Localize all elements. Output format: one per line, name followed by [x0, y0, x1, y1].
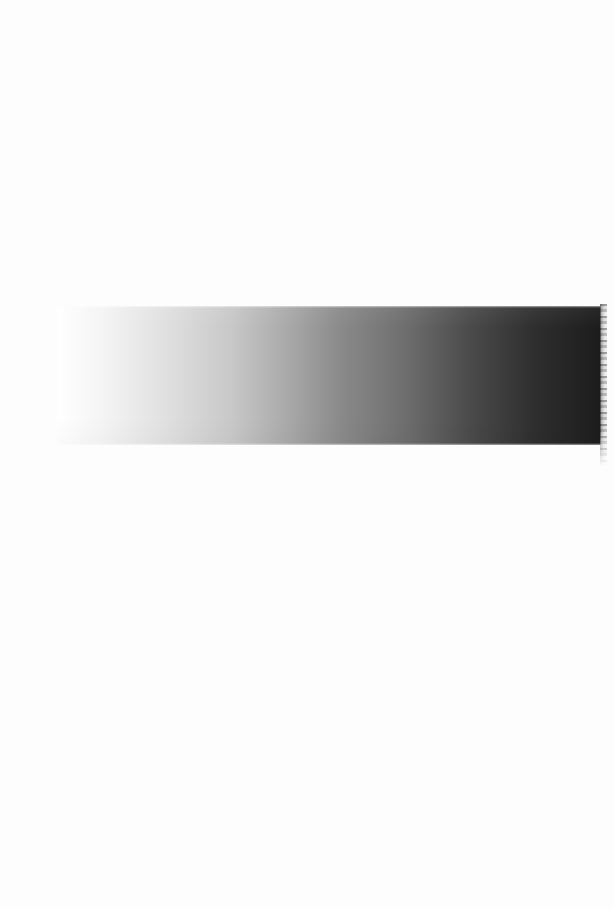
- scan-edge-artifact: [600, 304, 607, 465]
- grayscale-gradient-strip: [57, 306, 601, 445]
- paper-texture-overlay: [0, 0, 614, 908]
- gradient-ramp: [57, 306, 601, 445]
- scanned-page: [0, 0, 614, 908]
